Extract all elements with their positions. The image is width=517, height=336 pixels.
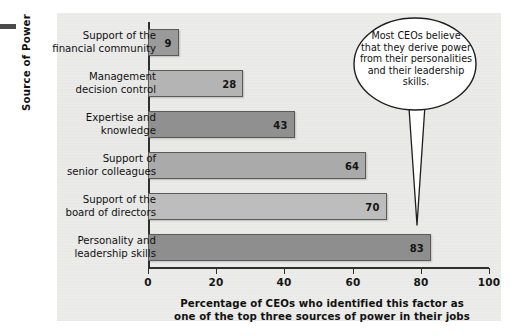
bar-4: 70 <box>148 193 387 220</box>
y-axis-line <box>148 22 150 268</box>
bar-3: 64 <box>148 152 366 179</box>
x-tick-label-40: 40 <box>276 276 291 288</box>
y-axis-title: Source of Power <box>21 14 32 111</box>
x-tick-100 <box>489 268 490 274</box>
x-tick-60 <box>353 268 354 274</box>
category-label-5-line2: leadership skills <box>6 248 156 260</box>
category-label-3: Support of senior colleagues <box>6 153 156 177</box>
x-tick-label-100: 100 <box>478 276 501 288</box>
bar-value-3: 64 <box>345 160 359 171</box>
category-label-2-line2: knowledge <box>6 125 156 137</box>
category-label-5-line1: Personality and <box>6 235 156 247</box>
x-axis-title-line2: one of the top three sources of power in… <box>148 310 496 323</box>
x-tick-40 <box>284 268 285 274</box>
plot-area: 0 20 40 60 80 100 9 28 43 64 70 83 Suppo… <box>0 0 517 336</box>
x-tick-label-20: 20 <box>208 276 223 288</box>
x-tick-label-80: 80 <box>413 276 428 288</box>
category-label-2-line1: Expertise and <box>6 112 156 124</box>
chart-figure: 0 20 40 60 80 100 9 28 43 64 70 83 Suppo… <box>0 0 517 336</box>
category-label-3-line2: senior colleagues <box>6 166 156 178</box>
category-label-2: Expertise and knowledge <box>6 112 156 136</box>
x-axis-line <box>148 267 489 269</box>
x-tick-20 <box>216 268 217 274</box>
bar-5: 83 <box>148 234 431 261</box>
bar-value-1: 28 <box>222 78 236 89</box>
x-tick-0 <box>148 268 149 274</box>
bar-value-4: 70 <box>365 201 379 212</box>
category-label-3-line1: Support of <box>6 153 156 165</box>
bar-value-0: 9 <box>165 37 172 48</box>
bar-1: 28 <box>148 70 243 97</box>
category-label-4-line2: board of directors <box>6 207 156 219</box>
bar-value-2: 43 <box>273 119 287 130</box>
bar-2: 43 <box>148 111 295 138</box>
category-label-4-line1: Support of the <box>6 194 156 206</box>
x-axis-title-line1: Percentage of CEOs who identified this f… <box>148 297 496 310</box>
x-axis-title: Percentage of CEOs who identified this f… <box>148 297 496 323</box>
x-tick-label-60: 60 <box>345 276 360 288</box>
x-tick-80 <box>421 268 422 274</box>
x-tick-label-0: 0 <box>144 276 152 288</box>
category-label-5: Personality and leadership skills <box>6 235 156 259</box>
category-label-4: Support of the board of directors <box>6 194 156 218</box>
bar-value-5: 83 <box>410 242 424 253</box>
